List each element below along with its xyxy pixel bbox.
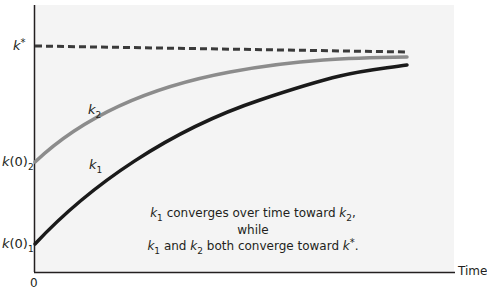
ann-k1-sub: 1 <box>157 213 163 223</box>
ann-text-end: . <box>355 239 359 253</box>
ann-text: and <box>160 239 190 253</box>
kstar-tick-label: k* <box>13 39 26 52</box>
annotation-line-1: k1 converges over time toward k2, while <box>138 205 368 238</box>
k2-curve-label: k2 <box>88 103 101 116</box>
kstar-star: * <box>21 37 26 48</box>
k2-k: k <box>88 102 96 117</box>
k1-k: k <box>89 157 97 172</box>
annotation-line-2: k1 and k2 both converge toward k*. <box>138 238 368 255</box>
ann-k2-sub: 2 <box>346 213 352 223</box>
ann-kstar-sup: * <box>350 237 355 248</box>
ann-text: converges over time toward <box>163 206 340 220</box>
annotation-text: k1 converges over time toward k2, while … <box>138 205 368 255</box>
ann-kstar: k <box>343 239 350 253</box>
k02-sub: 2 <box>28 162 34 172</box>
x-axis-label-time: Time <box>458 265 487 277</box>
k01-tick-label: k(0)1 <box>2 237 34 250</box>
k1-sub: 1 <box>97 165 103 175</box>
k2-sub: 2 <box>96 110 102 120</box>
k02-tick-label: k(0)2 <box>2 155 34 168</box>
k02-paren: (0) <box>10 154 28 169</box>
k01-k: k <box>2 236 10 251</box>
kstar-k: k <box>13 38 21 53</box>
k1-curve-label: k1 <box>89 158 102 171</box>
k01-sub: 1 <box>28 244 34 254</box>
ann-k1-sub: 1 <box>154 246 160 256</box>
origin-label: 0 <box>30 277 38 289</box>
k01-paren: (0) <box>10 236 28 251</box>
ann-text: both converge toward <box>203 239 343 253</box>
ann-k2-sub: 2 <box>197 246 203 256</box>
k02-k: k <box>2 154 10 169</box>
